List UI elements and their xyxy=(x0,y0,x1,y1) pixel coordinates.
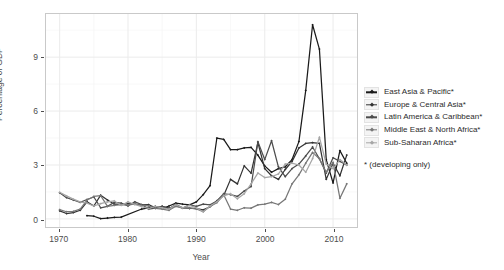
legend-point-glyph xyxy=(369,115,374,120)
legend-item-label: Europe & Central Asia* xyxy=(384,101,466,109)
legend-footnote: * (developing only) xyxy=(364,160,430,169)
legend-item-label: Latin America & Caribbean* xyxy=(384,113,482,121)
legend-item-label: Middle East & North Africa* xyxy=(384,126,480,134)
x-tick-mark xyxy=(265,229,266,232)
y-tick-mark xyxy=(41,220,44,221)
series-point xyxy=(305,89,307,91)
x-tick-label: 1970 xyxy=(49,234,68,244)
legend-item-label: Sub-Saharan Africa* xyxy=(384,139,457,147)
y-axis-title: Percentage of GDP xyxy=(0,47,4,121)
y-tick-label: 9 xyxy=(33,52,38,62)
series-point xyxy=(113,216,115,218)
legend-item[interactable]: Europe & Central Asia* xyxy=(364,99,504,112)
data-layer xyxy=(46,14,357,227)
series-point xyxy=(182,203,184,205)
plot-panel xyxy=(45,13,358,228)
chart-legend: East Asia & Pacific*Europe & Central Asi… xyxy=(364,86,504,149)
y-tick-mark xyxy=(41,165,44,166)
x-axis-title: Year xyxy=(192,252,209,262)
legend-point-glyph xyxy=(369,140,374,145)
legend-item-label: East Asia & Pacific* xyxy=(384,88,454,96)
x-tick-label: 1980 xyxy=(118,234,137,244)
legend-key-swatch xyxy=(364,137,379,148)
legend-item[interactable]: Middle East & North Africa* xyxy=(364,124,504,137)
y-tick-label: 3 xyxy=(33,160,38,170)
series-point xyxy=(86,215,88,217)
legend-key-swatch xyxy=(364,125,379,136)
x-tick-mark xyxy=(334,229,335,232)
x-tick-label: 1990 xyxy=(187,234,206,244)
x-tick-mark xyxy=(128,229,129,232)
legend-key-swatch xyxy=(364,87,379,98)
series-point xyxy=(106,217,108,219)
legend-point-glyph xyxy=(369,102,374,107)
x-tick-label: 2010 xyxy=(324,234,343,244)
series-point xyxy=(311,141,313,143)
x-tick-label: 2000 xyxy=(256,234,275,244)
series-line xyxy=(87,25,347,219)
y-tick-mark xyxy=(41,57,44,58)
legend-point-glyph xyxy=(369,90,374,95)
chart-figure: 036919701980199020002010 Percentage of G… xyxy=(0,0,504,270)
legend-key-swatch xyxy=(364,99,379,110)
y-tick-label: 0 xyxy=(33,215,38,225)
legend-item[interactable]: Sub-Saharan Africa* xyxy=(364,136,504,149)
y-tick-mark xyxy=(41,111,44,112)
series-line xyxy=(60,137,347,212)
x-tick-mark xyxy=(196,229,197,232)
legend-key-swatch xyxy=(364,112,379,123)
x-tick-mark xyxy=(59,229,60,232)
legend-item[interactable]: Latin America & Caribbean* xyxy=(364,111,504,124)
legend-item[interactable]: East Asia & Pacific* xyxy=(364,86,504,99)
y-tick-label: 6 xyxy=(33,106,38,116)
legend-point-glyph xyxy=(369,128,374,133)
